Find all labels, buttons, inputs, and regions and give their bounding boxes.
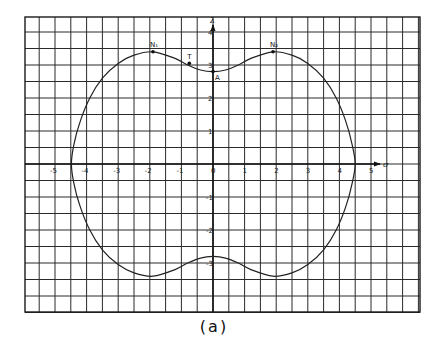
point-marker-n	[151, 50, 155, 54]
x-axis-name: σ	[383, 160, 389, 169]
x-tick-label: 2	[274, 167, 278, 175]
point-label-a: A	[215, 74, 220, 82]
x-tick-label: 1	[243, 167, 247, 175]
y-tick-label: -1	[206, 194, 213, 202]
x-tick-label: -3	[113, 167, 120, 175]
x-tick-label: 4	[337, 167, 342, 175]
y-tick-label: 1	[208, 128, 212, 136]
x-tick-label: 0	[211, 167, 215, 175]
point-marker-t	[188, 62, 192, 66]
point-marker-n	[271, 50, 275, 54]
y-axis-name: λ	[209, 16, 215, 25]
x-tick-label: -1	[176, 167, 183, 175]
x-tick-label: -2	[145, 167, 152, 175]
y-tick-labels: 4321-1-2-3	[206, 29, 213, 268]
y-tick-label: 3	[208, 62, 212, 70]
x-tick-label: -4	[82, 167, 90, 175]
x-axis-arrowhead-icon	[374, 162, 381, 167]
point-label-n: N₂	[270, 41, 278, 49]
point-label-n: N₁	[150, 41, 158, 49]
point-annotations: N₁TAN₂	[150, 41, 278, 82]
y-tick-label: 4	[208, 29, 213, 37]
x-tick-label: 5	[369, 167, 373, 175]
x-tick-label: 3	[306, 167, 310, 175]
y-tick-label: -2	[206, 227, 213, 235]
diagram-canvas: σ λ -5-4-3-2-1012345 4321-1-2-3 N₁TAN₂	[0, 0, 440, 350]
figure-caption: (a)	[0, 317, 428, 336]
y-tick-label: 2	[208, 95, 212, 103]
point-label-t: T	[186, 53, 192, 61]
x-tick-label: -5	[50, 167, 57, 175]
y-tick-label: -3	[206, 260, 213, 268]
x-tick-labels: -5-4-3-2-1012345	[50, 167, 373, 175]
